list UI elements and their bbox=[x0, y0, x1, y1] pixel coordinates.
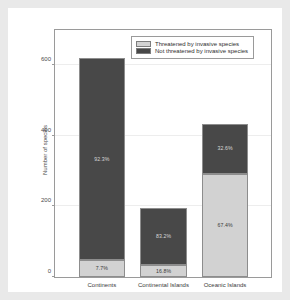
bar-continents-threatened-label: 7.7% bbox=[96, 266, 108, 271]
bar-oceanic-islands-threatened[interactable]: 67.4% bbox=[202, 174, 248, 277]
bar-continents-not-threatened-label: 92.3% bbox=[94, 157, 109, 162]
bar-continental-islands[interactable]: 83.2% 16.8% bbox=[140, 208, 186, 277]
bar-continental-islands-threatened-label: 16.8% bbox=[156, 269, 171, 274]
x-tick-label-continental-islands: Continental Islands bbox=[138, 282, 189, 288]
figure-panel: Number of species 600 400 200 0 bbox=[8, 8, 282, 292]
y-tick-label-600: 600 bbox=[41, 56, 51, 62]
legend-swatch-not-threatened-icon bbox=[136, 48, 151, 54]
y-tick-mark-600 bbox=[52, 64, 55, 65]
legend-item-threatened[interactable]: Threatened by invasive species bbox=[136, 41, 248, 47]
bar-oceanic-islands-threatened-label: 67.4% bbox=[217, 223, 232, 228]
x-tick-label-oceanic-islands: Oceanic Islands bbox=[204, 282, 247, 288]
bar-oceanic-islands-not-threatened[interactable]: 32.6% bbox=[202, 124, 248, 174]
y-tick-label-400: 400 bbox=[41, 127, 51, 133]
y-tick-mark-400 bbox=[52, 135, 55, 136]
bar-continents-threatened[interactable]: 7.7% bbox=[79, 260, 125, 277]
y-tick-label-0: 0 bbox=[48, 268, 51, 274]
bar-continental-islands-not-threatened-label: 83.2% bbox=[156, 234, 171, 239]
bar-continental-islands-threatened[interactable]: 16.8% bbox=[140, 265, 186, 277]
y-tick-mark-200 bbox=[52, 205, 55, 206]
legend-label-threatened: Threatened by invasive species bbox=[155, 41, 239, 47]
y-tick-label-200: 200 bbox=[41, 197, 51, 203]
legend-item-not-threatened[interactable]: Not threatened by invasive species bbox=[136, 48, 248, 54]
x-tick-label-continents: Continents bbox=[88, 282, 117, 288]
plot-inner: 600 400 200 0 92.3% 7.7% Continents bbox=[55, 30, 271, 277]
bar-continental-islands-not-threatened[interactable]: 83.2% bbox=[140, 208, 186, 266]
bar-continents-not-threatened[interactable]: 92.3% bbox=[79, 58, 125, 260]
bar-continents[interactable]: 92.3% 7.7% bbox=[79, 58, 125, 277]
plot-area: 600 400 200 0 92.3% 7.7% Continents bbox=[54, 29, 272, 278]
screenshot-root: Number of species 600 400 200 0 bbox=[0, 0, 290, 300]
bar-oceanic-islands-not-threatened-label: 32.6% bbox=[217, 146, 232, 151]
legend: Threatened by invasive species Not threa… bbox=[131, 36, 254, 59]
y-tick-mark-0 bbox=[52, 276, 55, 277]
legend-label-not-threatened: Not threatened by invasive species bbox=[155, 48, 248, 54]
legend-swatch-threatened-icon bbox=[136, 41, 151, 47]
bar-oceanic-islands[interactable]: 32.6% 67.4% bbox=[202, 124, 248, 277]
